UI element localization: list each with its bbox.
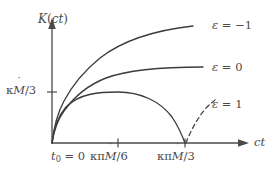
curve-label-epsilon-minus-1: ε = −1	[212, 20, 252, 32]
x-tick-label-kappa-pi-mdot-3: κπM/3	[157, 151, 195, 163]
x-axis	[52, 139, 249, 147]
curve-label-epsilon-plus-1: ε = 1	[212, 99, 242, 111]
y-axis-label: K(ct)	[38, 13, 68, 25]
curve-epsilon-plus-1	[52, 92, 185, 143]
figure-canvas: K(ct) ct κM/3 t0 = 0 κπM/6 κπM/3 ε = −1 …	[0, 0, 278, 174]
curve-epsilon-minus-1	[52, 26, 193, 143]
x-axis-label: ct	[254, 137, 265, 149]
x-tick-label-kappa-pi-mdot-6: κπM/6	[90, 151, 128, 163]
curve-label-epsilon-0: ε = 0	[212, 62, 242, 74]
y-tick-label-kappa-mdot-3: κM/3	[6, 85, 36, 97]
x-tick-label-t0: t0 = 0	[51, 151, 85, 163]
